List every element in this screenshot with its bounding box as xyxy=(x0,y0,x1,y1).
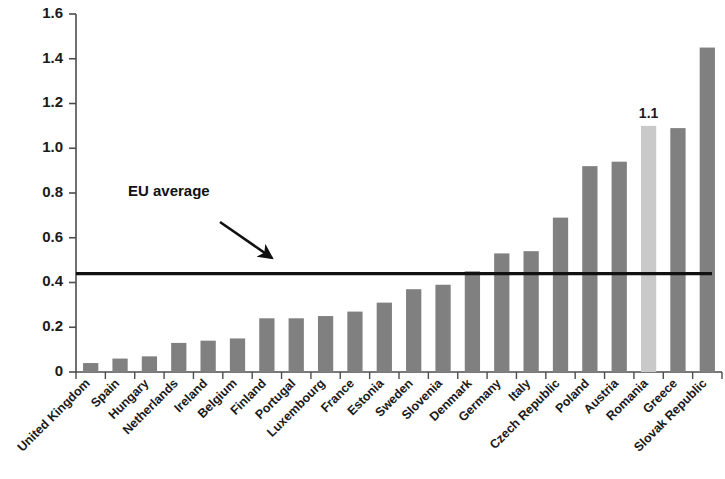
bar xyxy=(347,312,362,372)
y-tick-label: 1.6 xyxy=(42,4,63,21)
bar xyxy=(289,318,304,372)
y-tick-label: 0.6 xyxy=(42,228,63,245)
y-tick-label: 0.2 xyxy=(42,317,63,334)
y-tick-label: 1.0 xyxy=(42,138,63,155)
bar xyxy=(83,363,98,372)
bar xyxy=(670,128,685,372)
bar xyxy=(406,289,421,372)
bar xyxy=(201,341,216,372)
y-tick-label: 1.2 xyxy=(42,93,63,110)
bar xyxy=(435,285,450,372)
bar xyxy=(494,253,509,372)
data-labels: 1.1 xyxy=(639,105,659,121)
chart-canvas: 1.61.41.21.00.80.60.40.20 1.1 EU average… xyxy=(0,0,725,479)
bar xyxy=(524,251,539,372)
y-tick-label: 0 xyxy=(55,362,63,379)
bar xyxy=(142,356,157,372)
bar xyxy=(318,316,333,372)
y-tick-label: 1.4 xyxy=(42,49,64,66)
bar xyxy=(582,166,597,372)
y-tick-label: 0.8 xyxy=(42,183,63,200)
bar xyxy=(641,126,656,372)
bar xyxy=(171,343,186,372)
bar-chart: 1.61.41.21.00.80.60.40.20 1.1 EU average… xyxy=(0,0,725,479)
bar xyxy=(112,359,127,372)
bar xyxy=(377,303,392,372)
bar xyxy=(612,162,627,372)
bar xyxy=(700,48,715,372)
y-tick-label: 0.4 xyxy=(42,272,64,289)
bar xyxy=(465,271,480,372)
eu-average-label: EU average xyxy=(128,182,210,199)
bar xyxy=(259,318,274,372)
bar xyxy=(230,338,245,372)
bar xyxy=(553,218,568,372)
bar-value-label: 1.1 xyxy=(639,105,659,121)
